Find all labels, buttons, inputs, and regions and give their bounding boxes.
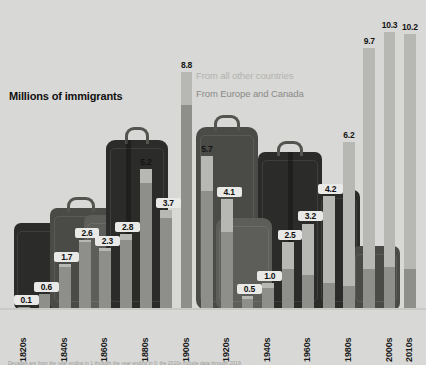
bar-value-label-1860s: 2.3 <box>95 236 120 246</box>
bar-segment-europe-canada <box>323 283 335 310</box>
axis-baseline <box>0 308 426 310</box>
x-axis-label-1980s: 1980s <box>343 337 353 362</box>
bar-segment-other-countries <box>302 224 314 275</box>
x-axis-label-1960s: 1960s <box>302 337 312 362</box>
bar-segment-other-countries <box>282 242 294 269</box>
bar-value-label-1870s: 2.8 <box>115 222 140 232</box>
legend-label-other: From all other countries <box>196 70 293 81</box>
bar-value-label-1950s: 2.5 <box>278 230 303 240</box>
bar-segment-other-countries <box>323 196 335 283</box>
bar-segment-other-countries <box>99 248 111 251</box>
bar-value-label-2000s: 10.3 <box>379 20 400 30</box>
bar-value-label-1970s: 4.2 <box>318 184 343 194</box>
legend-label-europe: From Europe and Canada <box>196 88 304 99</box>
bar-segment-europe-canada <box>59 267 71 310</box>
bar-value-label-1880s: 5.2 <box>136 157 157 167</box>
bar-segment-other-countries <box>221 199 233 231</box>
bar-value-label-1830s: 0.6 <box>34 282 59 292</box>
bar-segment-europe-canada <box>343 286 355 310</box>
bar-segment-europe-canada <box>363 269 375 310</box>
bar-1950s[interactable] <box>282 242 294 310</box>
x-axis-label-2010s: 2010s <box>404 337 414 362</box>
bar-segment-europe-canada <box>302 275 314 310</box>
bar-segment-europe-canada <box>384 267 396 310</box>
bar-1920s[interactable] <box>221 199 233 310</box>
bar-1850s[interactable] <box>79 240 91 310</box>
bar-1860s[interactable] <box>99 248 111 310</box>
bar-segment-other-countries <box>120 234 132 239</box>
x-axis-label-1840s: 1840s <box>59 337 69 362</box>
bar-segment-other-countries <box>404 34 416 269</box>
bar-segment-europe-canada <box>262 288 274 310</box>
bar-segment-other-countries <box>59 264 71 267</box>
chart-canvas: 0.11820s0.61.71840s2.62.31860s2.85.21880… <box>0 0 426 365</box>
bar-segment-europe-canada <box>99 251 111 310</box>
x-axis-label-1860s: 1860s <box>99 337 109 362</box>
x-axis-label-2000s: 2000s <box>384 337 394 362</box>
bar-value-label-1840s: 1.7 <box>54 252 79 262</box>
bar-segment-other-countries <box>363 48 375 270</box>
bar-value-label-1820s: 0.1 <box>14 295 39 305</box>
bar-segment-other-countries <box>343 142 355 285</box>
bar-segment-europe-canada <box>221 232 233 310</box>
x-axis-label-1880s: 1880s <box>140 337 150 362</box>
chart-footnote: Decades are from the year ending in 1 th… <box>8 360 418 365</box>
bar-segment-other-countries <box>201 156 213 191</box>
x-axis-label-1940s: 1940s <box>262 337 272 362</box>
bar-segment-other-countries <box>384 32 396 267</box>
x-axis-label-1820s: 1820s <box>18 337 28 362</box>
bar-1900s[interactable] <box>181 72 193 310</box>
bar-1870s[interactable] <box>120 234 132 310</box>
plot-area: 0.11820s0.61.71840s2.62.31860s2.85.21880… <box>0 0 426 365</box>
bar-1970s[interactable] <box>323 196 335 310</box>
bar-segment-europe-canada <box>120 240 132 310</box>
bar-value-label-1960s: 3.2 <box>298 211 323 221</box>
bar-segment-other-countries <box>181 72 193 104</box>
bar-1910s[interactable] <box>201 156 213 310</box>
bar-1880s[interactable] <box>140 169 152 310</box>
bar-value-label-2010s: 10.2 <box>399 22 420 32</box>
bar-1890s[interactable] <box>160 210 172 310</box>
bar-segment-europe-canada <box>404 269 416 310</box>
legend-item-other: From all other countries <box>196 70 293 81</box>
bar-1980s[interactable] <box>343 142 355 310</box>
bar-segment-europe-canada <box>140 183 152 310</box>
bar-segment-europe-canada <box>181 105 193 310</box>
bar-segment-other-countries <box>242 296 254 299</box>
bar-value-label-1930s: 0.5 <box>237 284 262 294</box>
bar-value-label-1910s: 5.7 <box>196 144 217 154</box>
bar-value-label-1890s: 3.7 <box>156 198 181 208</box>
bar-segment-europe-canada <box>282 269 294 310</box>
x-axis-label-1920s: 1920s <box>221 337 231 362</box>
bar-1940s[interactable] <box>262 283 274 310</box>
bar-2000s[interactable] <box>384 32 396 310</box>
bar-value-label-1900s: 8.8 <box>176 60 197 70</box>
bar-segment-europe-canada <box>201 191 213 310</box>
x-axis-label-1900s: 1900s <box>181 337 191 362</box>
bar-value-label-1920s: 4.1 <box>217 187 242 197</box>
chart-title: Millions of immigrants <box>9 90 122 102</box>
bar-segment-other-countries <box>160 210 172 218</box>
bar-segment-other-countries <box>140 169 152 183</box>
bar-2010s[interactable] <box>404 34 416 310</box>
bar-segment-other-countries <box>262 283 274 288</box>
bar-1990s[interactable] <box>363 48 375 310</box>
legend-item-europe: From Europe and Canada <box>196 88 304 99</box>
bar-segment-europe-canada <box>79 242 91 310</box>
bar-1840s[interactable] <box>59 264 71 310</box>
bar-segment-other-countries <box>79 240 91 243</box>
bar-value-label-1980s: 6.2 <box>339 130 360 140</box>
bar-segment-europe-canada <box>160 218 172 310</box>
bar-value-label-1940s: 1.0 <box>257 271 282 281</box>
bar-value-label-1990s: 9.7 <box>359 36 380 46</box>
bar-1960s[interactable] <box>302 223 314 310</box>
